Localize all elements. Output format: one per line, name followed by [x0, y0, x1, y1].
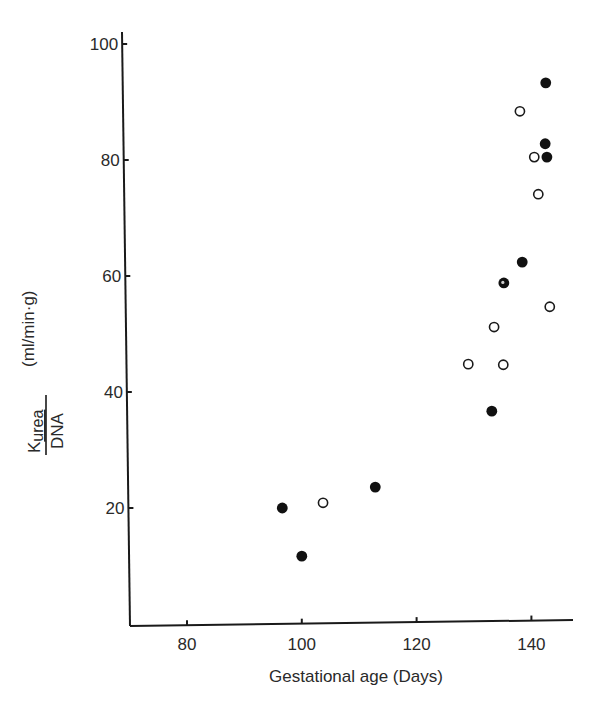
open-circle-marker	[499, 360, 508, 369]
y-axis-units: (ml/min·g)	[19, 291, 38, 368]
filled-circle-marker	[517, 257, 528, 268]
open-circle-marker	[489, 322, 498, 331]
y-tick-label: 40	[104, 383, 123, 402]
data-points	[277, 77, 554, 561]
filled-circle-marker	[296, 551, 307, 562]
x-tick-label: 100	[288, 635, 316, 654]
y-axis-line	[122, 32, 130, 626]
x-axis-title: Gestational age (Days)	[269, 667, 443, 686]
axes	[122, 32, 573, 626]
x-axis-line	[130, 620, 573, 626]
x-tick-label: 120	[402, 635, 430, 654]
y-tick-label: 60	[102, 267, 121, 286]
open-circle-marker	[534, 190, 543, 199]
filled-circle-marker	[370, 482, 381, 493]
mixed-circle-highlight	[501, 281, 504, 284]
scatter-chart: 20406080100 80100120140 Gestational age …	[0, 0, 606, 708]
filled-circle-marker	[540, 138, 551, 149]
y-axis-title: Kurea DNA (ml/min·g)	[16, 250, 76, 460]
y-axis-numerator: Kurea	[25, 410, 46, 453]
x-tick-label: 80	[178, 635, 197, 654]
filled-circle-marker	[277, 503, 288, 514]
y-tick-label: 100	[90, 35, 118, 54]
x-tick-label: 140	[517, 635, 545, 654]
open-circle-marker	[545, 302, 554, 311]
y-axis-denominator: DNA	[48, 412, 67, 449]
open-circle-marker	[318, 498, 327, 507]
open-circle-marker	[464, 360, 473, 369]
open-circle-marker	[515, 107, 524, 116]
filled-circle-marker	[540, 77, 551, 88]
y-tick-label: 80	[101, 151, 120, 170]
open-circle-marker	[530, 153, 539, 162]
filled-circle-marker	[541, 152, 552, 163]
filled-circle-marker	[486, 406, 497, 417]
y-tick-label: 20	[105, 499, 124, 518]
